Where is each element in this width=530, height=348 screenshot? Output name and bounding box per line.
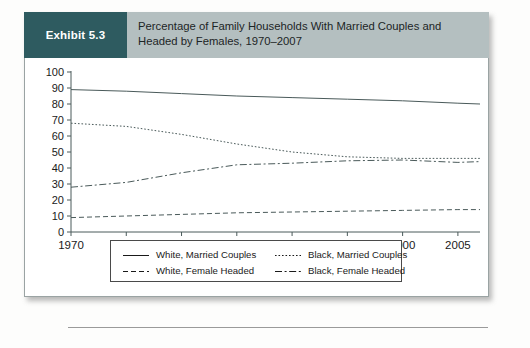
legend-label: Black, Female Headed xyxy=(308,265,405,276)
exhibit-title-line-1: Percentage of Family Households With Mar… xyxy=(138,19,479,34)
svg-text:1970: 1970 xyxy=(58,239,84,251)
svg-text:60: 60 xyxy=(52,130,64,142)
svg-text:10: 10 xyxy=(52,210,64,222)
legend-item-white-female: White, Female Headed xyxy=(111,265,275,276)
exhibit-title-line-2: Headed by Females, 1970–2007 xyxy=(138,34,479,49)
legend-label: Black, Married Couples xyxy=(308,249,407,260)
svg-text:30: 30 xyxy=(52,178,64,190)
legend-row-1: White, Married Couples Black, Married Co… xyxy=(111,246,401,262)
svg-text:80: 80 xyxy=(52,98,64,110)
svg-text:50: 50 xyxy=(52,146,64,158)
exhibit-title: Percentage of Family Households With Mar… xyxy=(127,12,489,58)
svg-text:100: 100 xyxy=(46,66,64,78)
svg-text:0: 0 xyxy=(58,226,64,238)
legend-swatch-dashdot-icon xyxy=(275,270,301,271)
chart-body: 0102030405060708090100197019751980198519… xyxy=(24,58,489,297)
chart-legend: White, Married Couples Black, Married Co… xyxy=(110,240,402,282)
legend-label: White, Married Couples xyxy=(156,249,256,260)
line-chart-plot: 0102030405060708090100197019751980198519… xyxy=(25,58,488,253)
legend-item-white-married: White, Married Couples xyxy=(111,249,275,260)
legend-row-2: White, Female Headed Black, Female Heade… xyxy=(111,262,401,278)
legend-label: White, Female Headed xyxy=(156,265,254,276)
svg-text:20: 20 xyxy=(52,194,64,206)
chart-svg: 0102030405060708090100197019751980198519… xyxy=(25,58,488,253)
exhibit-header: Exhibit 5.3 Percentage of Family Househo… xyxy=(24,12,489,58)
svg-text:40: 40 xyxy=(52,162,64,174)
svg-text:2005: 2005 xyxy=(445,239,471,251)
exhibit-badge: Exhibit 5.3 xyxy=(24,12,127,58)
svg-text:90: 90 xyxy=(52,82,64,94)
legend-item-black-married: Black, Married Couples xyxy=(275,249,401,260)
exhibit-card: Exhibit 5.3 Percentage of Family Househo… xyxy=(24,12,489,297)
legend-swatch-solid-icon xyxy=(123,254,149,255)
svg-text:70: 70 xyxy=(52,114,64,126)
legend-item-black-female: Black, Female Headed xyxy=(275,265,401,276)
legend-swatch-dashed-icon xyxy=(123,270,149,271)
page-bottom-rule xyxy=(68,327,488,328)
legend-swatch-dotted-icon xyxy=(275,254,301,255)
screenshot-page: Exhibit 5.3 Percentage of Family Househo… xyxy=(0,0,530,348)
